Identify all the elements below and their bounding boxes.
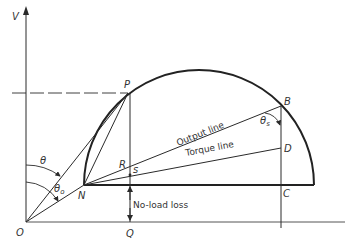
label-d: D <box>284 143 292 154</box>
label-c: C <box>283 188 290 199</box>
line-np <box>84 93 128 185</box>
label-b: B <box>284 96 291 107</box>
axis-label-v: V <box>12 11 20 22</box>
label-q: Q <box>126 228 134 239</box>
label-thetas: θs <box>260 115 270 128</box>
label-o: O <box>16 227 24 238</box>
torque-line <box>84 148 281 185</box>
circle-diagram: V P B D C R s N O Q θ θo θs Output line … <box>0 0 354 246</box>
point-s <box>129 174 132 177</box>
voltage-axis-arrow-icon <box>23 6 29 15</box>
label-n: N <box>78 190 86 201</box>
noload-loss-label: No-load loss <box>133 200 188 210</box>
theta-arc <box>26 165 60 176</box>
label-p: P <box>124 79 131 90</box>
label-s: s <box>133 164 138 175</box>
label-theta: θ <box>40 155 46 166</box>
label-r: R <box>119 159 126 170</box>
label-theta0: θo <box>54 183 64 196</box>
